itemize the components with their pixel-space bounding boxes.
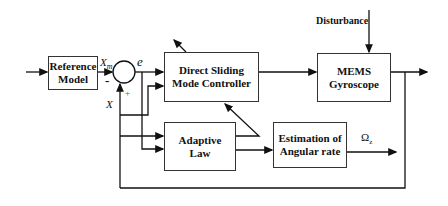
block-label: Estimation of	[278, 132, 341, 145]
block-label: Law	[190, 147, 211, 160]
block-label: Reference	[50, 60, 97, 73]
block-label: Adaptive	[179, 134, 222, 147]
plus-sign: +	[125, 88, 130, 98]
minus-sign: -	[105, 73, 109, 89]
block-label: Mode Controller	[172, 77, 251, 90]
x-label: X	[106, 98, 113, 110]
adaptive-law-block: Adaptive Law	[164, 122, 236, 171]
gyroscope-block: MEMS Gyroscope	[317, 53, 391, 102]
estimation-block: Estimation of Angular rate	[273, 122, 347, 168]
reference-model-block: Reference Model	[48, 56, 98, 90]
block-label: Angular rate	[280, 145, 341, 158]
controller-block: Direct Sliding Mode Controller	[164, 52, 259, 102]
omega-label: Ωz	[361, 131, 372, 146]
block-label: Gyroscope	[329, 78, 379, 91]
diagram-wires	[0, 0, 448, 206]
block-label: MEMS	[337, 65, 371, 78]
error-label: e	[137, 54, 143, 70]
xm-label: Xm	[100, 56, 113, 71]
summing-junction	[113, 61, 135, 83]
controller-param-arrow	[174, 40, 186, 52]
block-label: Model	[58, 73, 88, 86]
disturbance-label: Disturbance	[316, 15, 368, 26]
e-to-adaptive-arrow	[142, 72, 163, 149]
block-label: Direct Sliding	[179, 64, 244, 77]
